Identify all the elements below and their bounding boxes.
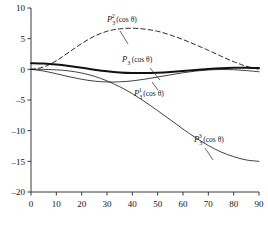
x-tick-label: 40 [128,199,138,209]
y-tick-label: 5 [21,34,26,44]
label-subscript: 3 [112,20,115,26]
plot-area: 1050–5–10–15–200102030405060708090 P32(c… [0,0,268,235]
label-p3-1: P31(cos θ) [133,87,164,100]
label-superscript: 2 [112,13,115,19]
y-tick-label: 0 [21,65,26,75]
label-p3-0: P3(cos θ) [121,54,153,66]
label-superscript: 1 [139,87,142,93]
x-tick-label: 70 [204,199,214,209]
label-superscript: 3 [199,133,202,139]
label-argument: (cos θ) [116,15,137,24]
x-tick-label: 10 [52,199,62,209]
label-argument: (cos θ) [143,89,164,98]
label-subscript: 3 [139,94,142,100]
y-tick-label: –20 [11,187,26,197]
y-tick-label: 10 [16,3,26,13]
label-p3-2: P32(cos θ) [106,13,137,26]
y-tick-label: –15 [11,157,26,167]
label-subscript: 3 [127,60,130,66]
x-tick-label: 30 [103,199,113,209]
label-argument: (cos θ) [203,135,224,144]
y-tick-label: –10 [11,126,26,136]
label-subscript: 3 [199,140,202,146]
y-tick-label: –5 [15,95,26,105]
legendre-functions-figure: 1050–5–10–15–200102030405060708090 P32(c… [0,0,268,235]
x-tick-label: 0 [29,199,34,209]
x-tick-label: 20 [77,199,87,209]
x-tick-label: 90 [255,199,265,209]
x-tick-label: 80 [229,199,239,209]
x-tick-label: 50 [153,199,163,209]
label-p3-3: P33(cos θ) [193,133,224,146]
x-tick-label: 60 [179,199,189,209]
label-argument: (cos θ) [132,55,153,64]
